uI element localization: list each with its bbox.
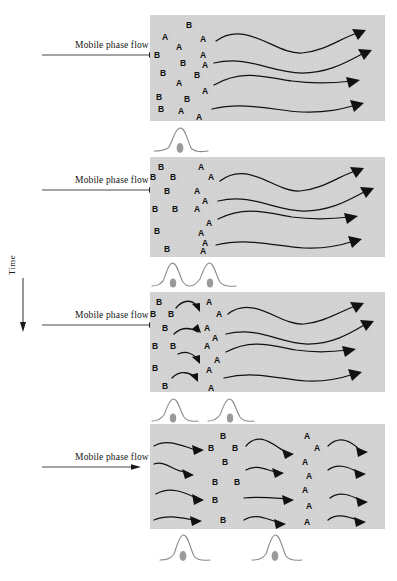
panel-partial-separation: B A B B A B A A B B A A B A A B A	[150, 157, 385, 257]
time-axis: Time	[0, 240, 40, 350]
figure-canvas: Time Mobile phase flow	[0, 0, 397, 581]
solute-label: A	[206, 298, 212, 307]
solute-label: B	[160, 69, 166, 78]
solute-label: B	[154, 227, 160, 236]
solute-label: A	[302, 486, 308, 495]
solute-label: A	[206, 366, 212, 375]
solute-label: B	[208, 444, 214, 453]
panel-3-transfer-arrows	[172, 301, 198, 378]
solute-label: A	[206, 219, 212, 228]
solute-label: B	[162, 382, 168, 391]
solute-label: A	[200, 35, 206, 44]
solute-label: B	[234, 478, 240, 487]
solute-label: B	[172, 205, 178, 214]
flow-arrow-1	[42, 51, 160, 60]
solute-label: A	[200, 51, 206, 60]
solute-label: B	[212, 478, 218, 487]
solute-label: A	[208, 173, 214, 182]
panel-3-flow-streamlines	[150, 292, 385, 392]
solute-label: B	[162, 324, 168, 333]
solute-label: B	[170, 342, 176, 351]
solute-label: B	[156, 298, 162, 307]
panel-initial-mixed-zone: B A A A B A B A B B A A B B B A A	[150, 15, 385, 121]
band-marker	[177, 143, 184, 153]
band-marker	[170, 413, 176, 422]
solute-label: B	[152, 205, 158, 214]
solute-label: A	[314, 444, 320, 453]
solute-label: B	[158, 163, 164, 172]
solute-label: B	[194, 71, 200, 80]
solute-label: B	[220, 516, 226, 525]
solute-label: B	[154, 51, 160, 60]
solute-label: B	[156, 93, 162, 102]
solute-label: B	[184, 95, 190, 104]
panel-resolved-zones: B A B B A B A A B B A A B A B A	[150, 292, 385, 392]
solute-label: A	[176, 79, 182, 88]
solute-label: A	[304, 432, 310, 441]
solute-label: A	[162, 33, 168, 42]
panel-4-flow-streamlines	[150, 424, 385, 529]
solute-label: A	[176, 43, 182, 52]
solute-label: B	[164, 245, 170, 254]
time-axis-label: Time	[7, 241, 17, 289]
solute-label: B	[150, 173, 156, 182]
chromatogram-2	[152, 259, 272, 289]
solute-label: A	[196, 113, 202, 121]
solute-label: B	[232, 444, 238, 453]
solute-label: A	[202, 87, 208, 96]
solute-label: A	[200, 247, 206, 256]
solute-label: A	[306, 502, 312, 511]
band-marker	[170, 278, 176, 287]
solute-label: A	[306, 472, 312, 481]
solute-label: A	[194, 205, 200, 214]
solute-label: B	[164, 187, 170, 196]
solute-label: A	[304, 518, 310, 527]
flow-arrow-2	[42, 186, 160, 195]
time-direction-arrow	[19, 278, 27, 334]
chromatogram-2-trace	[152, 259, 272, 289]
solute-label: A	[202, 197, 208, 206]
solute-label: A	[204, 342, 210, 351]
solute-label: B	[170, 173, 176, 182]
chromatogram-4	[152, 531, 382, 565]
chromatogram-1-trace	[152, 124, 262, 154]
chromatogram-3	[152, 394, 282, 424]
solute-label: B	[150, 310, 156, 319]
solute-label: B	[186, 21, 192, 30]
solute-label: B	[158, 105, 164, 114]
solute-label: A	[178, 107, 184, 116]
solute-label: A	[198, 229, 204, 238]
solute-label: B	[212, 496, 218, 505]
solute-label: A	[194, 187, 200, 196]
panel-2-flow-streamlines	[150, 157, 385, 257]
solute-label: B	[222, 458, 228, 467]
panel-baseline-separated: B A B B A B A A B B A B A B A	[150, 424, 385, 529]
solute-label: A	[214, 356, 220, 365]
band-marker	[227, 413, 233, 422]
chromatogram-4-trace	[152, 531, 382, 565]
band-marker	[207, 278, 213, 287]
solute-label: A	[302, 458, 308, 467]
chromatogram-1	[152, 124, 262, 154]
solute-label: A	[198, 163, 204, 172]
band-marker	[272, 551, 279, 561]
solute-label: B	[168, 310, 174, 319]
solute-label: A	[216, 310, 222, 319]
panel-1-flow-streamlines	[150, 15, 385, 121]
solute-label: A	[212, 334, 218, 343]
solute-label: B	[220, 432, 226, 441]
flow-arrow-4	[42, 463, 142, 472]
solute-label: A	[202, 61, 208, 70]
solute-label: B	[180, 59, 186, 68]
chromatogram-3-trace	[152, 394, 282, 424]
solute-label: B	[152, 364, 158, 373]
solute-label: A	[204, 324, 210, 333]
flow-arrow-3	[42, 321, 160, 330]
solute-label: B	[152, 342, 158, 351]
solute-label: A	[208, 384, 214, 392]
band-marker	[180, 551, 187, 561]
